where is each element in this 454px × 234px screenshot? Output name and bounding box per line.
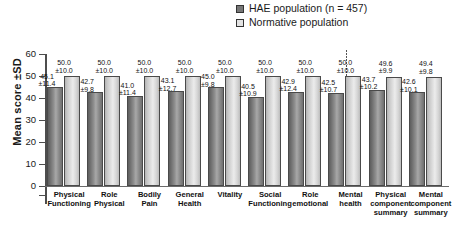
bar-value-mean: 50.0 <box>298 59 312 66</box>
bar-value-mean: 50.0 <box>218 59 232 66</box>
bar-label-hae: 45.1±11.4 <box>30 73 64 88</box>
category-label-8: Physicalcomponentsummary <box>368 190 414 217</box>
category-label-0: PhysicalFunctioning <box>46 190 92 208</box>
bar-value-mean: 49.6 <box>379 60 393 67</box>
bar-hae[interactable] <box>328 93 344 187</box>
y-tick-label-30: 30 <box>14 115 36 124</box>
y-tick-label-0: 0 <box>14 181 36 190</box>
bar-label-normative: 49.6±9.9 <box>369 60 403 75</box>
bar-group: 41.0±11.450.0±10.0 <box>127 44 167 186</box>
bar-label-hae: 42.6±10.1 <box>392 78 426 93</box>
bar-label-normative: 50.0±10.0 <box>87 59 121 74</box>
bar-normative[interactable] <box>345 76 361 186</box>
bar-group: 40.5±10.950.0±10.0 <box>248 44 288 186</box>
category-label-9: Mentalcomponentsummary <box>408 190 454 217</box>
bar-label-normative: 50.0±10.0 <box>288 59 322 74</box>
bar-value-sd: ±11.4 <box>119 89 136 96</box>
bar-value-sd: ±10.0 <box>337 67 354 74</box>
bar-value-mean: 50.0 <box>138 59 152 66</box>
bar-value-mean: 50.0 <box>258 59 272 66</box>
bar-value-mean: 50.0 <box>178 59 192 66</box>
bar-group: 42.7±9.850.0±10.0 <box>87 44 127 186</box>
bar-normative[interactable] <box>144 76 160 186</box>
y-tick-label-20: 20 <box>14 137 36 146</box>
bar-hae[interactable] <box>248 97 264 186</box>
bar-value-mean: 45.0 <box>201 73 215 80</box>
bar-value-sd: ±10.1 <box>400 86 417 93</box>
legend-swatch-hae-icon <box>236 5 244 13</box>
x-axis-baseline <box>45 186 449 187</box>
bar-group: 43.1±12.750.0±10.0 <box>168 44 208 186</box>
bar-label-normative: 50.0±10.0 <box>328 59 362 74</box>
legend-label-normative: Normative population <box>249 17 348 28</box>
bar-value-sd: ±10.0 <box>296 67 313 74</box>
bar-hae[interactable] <box>47 87 63 186</box>
bar-value-sd: ±9.8 <box>80 86 94 93</box>
bar-value-sd: ±10.9 <box>239 90 256 97</box>
bar-hae[interactable] <box>369 90 385 186</box>
bar-label-hae: 42.7±9.8 <box>70 78 104 93</box>
bar-hae[interactable] <box>409 92 425 186</box>
y-tick-40 <box>39 98 45 99</box>
y-tick-label-40: 40 <box>14 93 36 102</box>
bar-value-sd: ±10.2 <box>360 83 377 90</box>
bar-hae[interactable] <box>208 87 224 186</box>
bar-label-hae: 41.0±11.4 <box>110 82 144 97</box>
y-tick-label-60: 60 <box>14 49 36 58</box>
bar-value-sd: ±10.0 <box>95 67 112 74</box>
y-tick-30 <box>39 120 45 121</box>
bar-normative[interactable] <box>185 76 201 186</box>
y-tick-10 <box>39 164 45 165</box>
bar-label-normative: 50.0±10.0 <box>168 59 202 74</box>
bar-hae[interactable] <box>288 92 304 186</box>
bar-value-sd: ±9.8 <box>419 68 433 75</box>
bar-label-hae: 43.1±12.7 <box>151 77 185 92</box>
bar-hae[interactable] <box>168 91 184 186</box>
bar-series-area: 45.1±11.450.0±10.042.7±9.850.0±10.041.0±… <box>47 44 449 186</box>
bar-label-hae: 42.5±10.7 <box>311 79 345 94</box>
bar-label-normative: 50.0±10.0 <box>208 59 242 74</box>
bar-value-sd: ±10.7 <box>320 86 337 93</box>
x-axis-category-labels: PhysicalFunctioningRolePhysicalBodilyPai… <box>47 190 449 234</box>
bar-hae[interactable] <box>127 96 143 186</box>
bar-value-sd: ±10.0 <box>136 67 153 74</box>
chart-legend: HAE population (n = 457) Normative popul… <box>236 2 448 30</box>
bar-group: 45.1±11.450.0±10.0 <box>47 44 87 186</box>
bar-value-mean: 42.9 <box>281 78 295 85</box>
bar-label-hae: 43.7±10.2 <box>352 76 386 91</box>
bar-value-mean: 50.0 <box>57 59 71 66</box>
category-label-5: SocialFunctioning <box>247 190 293 208</box>
bar-value-mean: 42.7 <box>80 78 94 85</box>
category-label-4: Vitality <box>207 190 253 199</box>
bar-value-mean: 41.0 <box>121 82 135 89</box>
bar-label-normative: 49.4±9.8 <box>409 60 443 75</box>
bar-group: 42.6±10.149.4±9.8 <box>409 44 449 186</box>
bar-value-mean: 43.7 <box>362 76 376 83</box>
bar-group: 42.5±10.750.0±10.0 <box>328 44 368 186</box>
bar-value-mean: 42.5 <box>322 79 336 86</box>
bar-group: 45.0±9.850.0±10.0 <box>208 44 248 186</box>
category-label-7: Mentalhealth <box>328 190 374 208</box>
bar-value-sd: ±10.0 <box>256 67 273 74</box>
bar-value-sd: ±9.9 <box>379 67 393 74</box>
bar-group: 43.7±10.249.6±9.9 <box>369 44 409 186</box>
bar-label-hae: 40.5±10.9 <box>231 83 265 98</box>
category-label-2: BodilyPain <box>127 190 173 208</box>
bar-label-normative: 50.0±10.0 <box>127 59 161 74</box>
y-tick-20 <box>39 142 45 143</box>
bar-value-mean: 49.4 <box>419 60 433 67</box>
y-tick-minor-below-zero <box>39 195 45 196</box>
bar-value-mean: 40.5 <box>241 83 255 90</box>
bar-value-mean: 42.6 <box>402 78 416 85</box>
bar-value-sd: ±10.0 <box>55 67 72 74</box>
bar-hae[interactable] <box>87 92 103 186</box>
bar-value-sd: ±10.0 <box>216 67 233 74</box>
category-label-3: GeneralHealth <box>167 190 213 208</box>
bar-label-normative: 50.0±10.0 <box>47 59 81 74</box>
legend-item-normative: Normative population <box>236 16 448 29</box>
bar-normative[interactable] <box>426 77 442 186</box>
bar-value-sd: ±11.4 <box>39 80 56 87</box>
bar-value-mean: 50.0 <box>339 59 353 66</box>
bar-value-sd: ±9.8 <box>201 81 215 88</box>
bar-value-mean: 50.0 <box>97 59 111 66</box>
